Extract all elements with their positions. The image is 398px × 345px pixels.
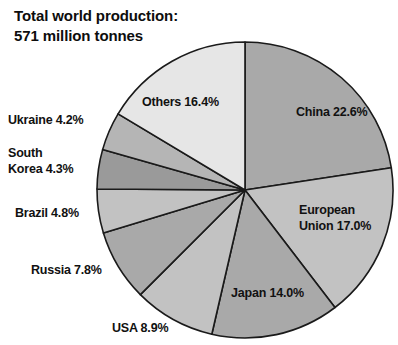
slice-label-russia: Russia 7.8% [31,262,102,278]
slice-label-china: China 22.6% [296,104,367,120]
slice-label-european-union: European Union 17.0% [299,202,371,234]
pie-chart-figure: Total world production: 571 million tonn… [0,0,398,345]
slice-label-brazil: Brazil 4.8% [15,205,79,221]
slice-label-usa: USA 8.9% [112,320,168,336]
slice-label-ukraine: Ukraine 4.2% [8,112,83,128]
slice-label-others: Others 16.4% [142,94,219,110]
slice-label-japan: Japan 14.0% [231,285,304,301]
slice-label-south-korea: South Korea 4.3% [8,145,73,177]
